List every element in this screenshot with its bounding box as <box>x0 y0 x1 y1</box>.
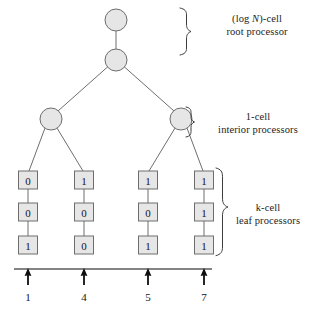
axis-arrows <box>25 268 208 285</box>
node-interior-right[interactable] <box>170 108 192 130</box>
node-interior-left[interactable] <box>40 108 62 130</box>
leaf-cell-value: 1 <box>139 241 158 252</box>
interior-annotation-line-2: interior processors <box>196 123 320 136</box>
root-annotation-line-1: (log N)-cell <box>198 12 316 25</box>
leaf-cell-value: 0 <box>139 208 158 219</box>
node-root-top[interactable] <box>105 9 127 31</box>
leaf-cell-value: 0 <box>19 208 38 219</box>
leaf-cell-boxes <box>19 171 214 254</box>
axis-arrow-up-icon <box>201 268 208 285</box>
axis-tick-label: 1 <box>18 292 38 303</box>
edge-interior-left-to-leaf-col-2 <box>57 128 83 171</box>
root-processor-annotation: (log N)-cell root processor <box>198 12 316 38</box>
leaf-processor-annotation: k-cell leaf processors <box>218 201 318 227</box>
edge-interior-right-to-leaf-col-3 <box>149 128 175 171</box>
axis-tick-label: 7 <box>194 292 214 303</box>
node-root-lower[interactable] <box>105 49 127 71</box>
axis-tick-label: 5 <box>138 292 158 303</box>
bottom-axis-group <box>14 268 212 285</box>
axis-arrow-up-icon <box>81 268 88 285</box>
leaf-cell-value: 0 <box>75 241 94 252</box>
leaf-cell-value: 1 <box>195 241 214 252</box>
leaf-cell-value: 0 <box>19 176 38 187</box>
circle-nodes <box>40 9 192 130</box>
leaf-annotation-line-1: k-cell <box>218 201 318 214</box>
edge-root-lower-to-interior-left <box>58 67 108 111</box>
leaf-cell-value: 1 <box>195 208 214 219</box>
edge-root-lower-to-interior-right <box>125 67 175 111</box>
root-annotation-suffix: )-cell <box>259 13 282 24</box>
root-annotation-line-2: root processor <box>198 25 316 38</box>
leaf-cell-value: 1 <box>139 176 158 187</box>
leaf-cell-value: 1 <box>75 176 94 187</box>
axis-arrow-up-icon <box>145 268 152 285</box>
leaf-cell-value: 1 <box>195 176 214 187</box>
root-annotation-prefix: (log <box>232 13 252 24</box>
leaf-cell-value: 1 <box>19 241 38 252</box>
interior-annotation-line-1: 1-cell <box>196 110 320 123</box>
processor-tree-figure: 0 0 1 1 0 0 1 0 1 1 1 1 1 4 5 7 (log N)-… <box>0 0 322 315</box>
interior-processor-annotation: 1-cell interior processors <box>196 110 320 136</box>
leaf-cell-value: 0 <box>75 208 94 219</box>
edge-interior-left-to-leaf-col-1 <box>29 128 45 171</box>
leaf-annotation-line-2: leaf processors <box>218 214 318 227</box>
brace-root-icon <box>180 8 191 55</box>
axis-arrow-up-icon <box>25 268 32 285</box>
figure-canvas <box>0 0 322 315</box>
axis-tick-label: 4 <box>74 292 94 303</box>
